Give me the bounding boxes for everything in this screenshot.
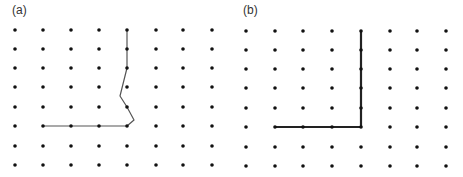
lattice-dot [125,105,129,109]
lattice-dot [97,144,101,148]
lattice-dot [125,66,129,70]
lattice-dot [244,67,248,71]
lattice-dot [415,125,419,129]
lattice-dot [244,164,248,168]
lattice-dot [273,86,277,90]
lattice-dot [13,28,17,32]
lattice-dot [359,29,363,33]
lattice-dot [13,47,17,51]
lattice-dot [154,124,158,128]
lattice-dot [301,86,305,90]
lattice-dot [244,48,248,52]
lattice-dot [388,67,392,71]
lattice-dot [273,48,277,52]
lattice-dot [388,145,392,149]
lattice-dot [301,67,305,71]
lattice-dot [388,106,392,110]
lattice-dot [273,145,277,149]
lattice-dot [444,67,448,71]
lattice-dot [301,48,305,52]
lattice-dot [415,145,419,149]
lattice-dot [210,85,214,89]
lattice-dot [301,164,305,168]
lattice-dot [154,85,158,89]
lattice-dot [97,47,101,51]
lattice-dot [359,48,363,52]
lattice-dot [330,125,334,129]
lattice-dot [273,164,277,168]
lattice-dot [244,86,248,90]
lattice-dot [444,86,448,90]
lattice-dot [181,144,185,148]
panel-b [244,29,448,168]
lattice-dot [244,106,248,110]
lattice-dot [13,163,17,167]
lattice-dot [69,85,73,89]
lattice-dot [181,28,185,32]
lattice-dot [181,66,185,70]
lattice-dot [359,164,363,168]
lattice-dot [97,28,101,32]
lattice-dot [359,86,363,90]
lattice-dot [41,144,45,148]
lattice-dot [181,163,185,167]
lattice-diagram [0,0,463,177]
lattice-dot [244,29,248,33]
walk-path [43,30,134,126]
lattice-dot [97,66,101,70]
lattice-dot [388,125,392,129]
lattice-dot [444,48,448,52]
lattice-dot [210,28,214,32]
lattice-dot [273,106,277,110]
lattice-dot [69,28,73,32]
lattice-dot [154,28,158,32]
lattice-dot [41,28,45,32]
lattice-dot [97,85,101,89]
walk-path [275,31,361,127]
lattice-dot [69,47,73,51]
lattice-dot [154,144,158,148]
lattice-dot [444,125,448,129]
lattice-dot [154,163,158,167]
lattice-dot [69,105,73,109]
lattice-dot [359,145,363,149]
lattice-dot [181,47,185,51]
lattice-dot [273,29,277,33]
lattice-dot [330,145,334,149]
lattice-dot [41,163,45,167]
lattice-dot [210,163,214,167]
lattice-dot [97,163,101,167]
lattice-dot [388,164,392,168]
lattice-dot [273,67,277,71]
lattice-dot [69,144,73,148]
lattice-dot [359,106,363,110]
lattice-dot [444,106,448,110]
lattice-dot [244,145,248,149]
lattice-dot [330,86,334,90]
lattice-dot [273,125,277,129]
lattice-dot [359,125,363,129]
lattice-dot [181,85,185,89]
lattice-dot [301,106,305,110]
lattice-dot [415,86,419,90]
lattice-dot [69,66,73,70]
lattice-dot [41,105,45,109]
lattice-dot [125,28,129,32]
lattice-dot [154,66,158,70]
lattice-dot [444,145,448,149]
lattice-dot [210,144,214,148]
lattice-dot [69,124,73,128]
lattice-dot [181,105,185,109]
lattice-dot [444,164,448,168]
lattice-dot [125,47,129,51]
lattice-dot [97,124,101,128]
lattice-dot [415,48,419,52]
lattice-dot [13,144,17,148]
lattice-dot [388,48,392,52]
lattice-dot [388,86,392,90]
lattice-dot [210,124,214,128]
lattice-dot [415,164,419,168]
lattice-dot [330,164,334,168]
lattice-dot [154,105,158,109]
lattice-dot [415,106,419,110]
